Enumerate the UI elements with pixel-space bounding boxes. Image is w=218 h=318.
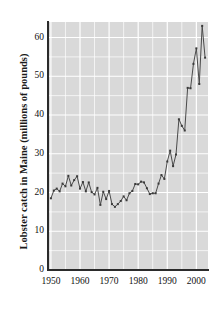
y-tick-label: 50: [0, 70, 44, 80]
y-tick-label: 0: [0, 264, 44, 274]
data-point: [149, 193, 151, 195]
data-point: [91, 191, 93, 193]
data-point: [163, 178, 165, 180]
data-point: [114, 206, 116, 208]
data-point: [120, 200, 122, 202]
data-point: [160, 174, 162, 176]
x-tick-label: 2000: [179, 276, 213, 286]
data-point: [152, 192, 154, 194]
y-tick-label: 60: [0, 32, 44, 42]
data-point: [128, 192, 130, 194]
y-axis-line: [47, 21, 49, 271]
data-point: [169, 150, 171, 152]
data-point: [131, 190, 133, 192]
y-tick-label: 20: [0, 187, 44, 197]
data-point: [137, 183, 139, 185]
data-point: [64, 185, 66, 187]
data-markers: [50, 25, 206, 208]
data-point: [172, 165, 174, 167]
data-point: [192, 63, 194, 65]
data-point: [85, 190, 87, 192]
data-point: [166, 161, 168, 163]
data-point: [70, 185, 72, 187]
data-point: [67, 175, 69, 177]
data-point: [178, 118, 180, 120]
plot-panel: [48, 22, 208, 270]
data-point: [59, 190, 61, 192]
data-point: [126, 199, 128, 201]
data-point: [187, 87, 189, 89]
data-point: [201, 25, 203, 27]
data-point: [117, 203, 119, 205]
data-point: [195, 47, 197, 49]
data-point: [146, 187, 148, 189]
data-point: [134, 183, 136, 185]
data-point: [94, 193, 96, 195]
y-tick-label: 40: [0, 109, 44, 119]
data-point: [140, 181, 142, 183]
y-tick-label: 10: [0, 225, 44, 235]
data-point: [190, 87, 192, 89]
data-point: [158, 183, 160, 185]
data-point: [96, 187, 98, 189]
chart-figure: Lobster catch in Maine (millions of poun…: [0, 0, 218, 318]
data-point: [62, 183, 64, 185]
data-point: [111, 203, 113, 205]
data-point: [102, 191, 104, 193]
data-point: [123, 195, 125, 197]
y-tick-label: 30: [0, 148, 44, 158]
data-point: [56, 188, 58, 190]
data-point: [53, 190, 55, 192]
data-point: [99, 204, 101, 206]
x-axis-line: [47, 269, 209, 271]
gridlines: [48, 22, 208, 270]
data-point: [143, 181, 145, 183]
plot-svg: [48, 22, 208, 270]
data-point: [76, 175, 78, 177]
data-point: [88, 181, 90, 183]
data-point: [108, 190, 110, 192]
data-point: [181, 125, 183, 127]
data-point: [155, 192, 157, 194]
data-point: [82, 181, 84, 183]
data-point: [79, 188, 81, 190]
data-point: [105, 198, 107, 200]
data-point: [175, 154, 177, 156]
data-point: [73, 179, 75, 181]
data-point: [198, 83, 200, 85]
data-point: [204, 57, 206, 59]
data-point: [184, 130, 186, 132]
data-point: [50, 197, 52, 199]
